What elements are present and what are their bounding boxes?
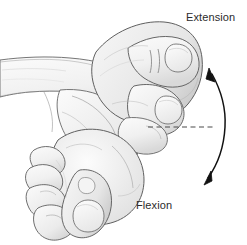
wrist-flexion-extension-illustration: [0, 0, 247, 245]
lower-knuckle-crease: [78, 177, 95, 193]
label-extension: Extension: [186, 11, 235, 24]
label-flexion: Flexion: [136, 199, 172, 212]
wrist-rom-figure: Extension Flexion: [0, 0, 247, 245]
